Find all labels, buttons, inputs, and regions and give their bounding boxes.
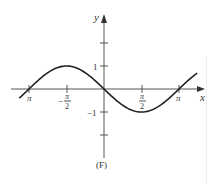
x-tick-label-neg-pi: π: [27, 93, 32, 103]
y-axis-arrow-icon: [101, 14, 107, 23]
y-tick-label-1: 1: [93, 62, 98, 72]
figure-caption: (F): [96, 160, 107, 170]
function-plot: x y 1 −1 π − π 2 π 2 π (F): [0, 0, 216, 185]
x-tick-label-neg-half-pi-sign: −: [58, 96, 63, 106]
x-tick-label-half-pi-den: 2: [140, 102, 144, 111]
x-tick-label-pi: π: [176, 93, 181, 103]
y-tick-label-neg1: −1: [87, 108, 97, 118]
x-axis-label: x: [199, 91, 205, 103]
x-tick-label-half-pi-num: π: [140, 92, 145, 101]
x-tick-label-neg-half-pi-den: 2: [65, 102, 69, 111]
y-axis-label: y: [93, 11, 99, 23]
x-tick-label-neg-half-pi-num: π: [65, 92, 70, 101]
